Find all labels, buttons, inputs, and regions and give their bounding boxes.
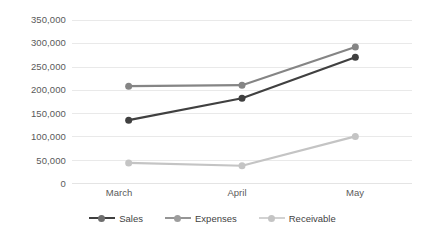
y-tick-label: 350,000 (0, 15, 66, 25)
line-chart: 350,000 300,000 250,000 200,000 150,000 … (0, 0, 425, 237)
y-tick-label: 100,000 (0, 132, 66, 142)
legend-dot (174, 215, 181, 222)
series-line-receivable (129, 136, 356, 165)
x-axis: March April May (72, 187, 412, 203)
legend-item-receivable[interactable]: Receivable (259, 213, 336, 224)
y-tick-label: 50,000 (0, 156, 66, 166)
plot-area (72, 20, 412, 183)
data-point[interactable] (239, 162, 246, 169)
data-point[interactable] (239, 82, 246, 89)
y-tick-label: 150,000 (0, 109, 66, 119)
legend-item-sales[interactable]: Sales (89, 213, 143, 224)
data-point[interactable] (352, 133, 359, 140)
legend-marker-icon (165, 213, 191, 223)
x-tick-label: May (346, 187, 364, 198)
series-layer (72, 20, 412, 183)
y-tick-label: 0 (0, 179, 66, 189)
x-tick-label: March (106, 187, 132, 198)
legend-dot (98, 215, 105, 222)
y-tick-label: 200,000 (0, 85, 66, 95)
data-point[interactable] (125, 159, 132, 166)
data-point[interactable] (125, 117, 132, 124)
y-axis: 350,000 300,000 250,000 200,000 150,000 … (0, 0, 66, 237)
data-point[interactable] (239, 95, 246, 102)
legend-item-expenses[interactable]: Expenses (165, 213, 237, 224)
data-point[interactable] (352, 44, 359, 51)
legend-marker-icon (259, 213, 285, 223)
data-point[interactable] (352, 54, 359, 61)
legend-label: Sales (119, 213, 143, 224)
series-line-expenses (129, 47, 356, 86)
y-tick-label: 300,000 (0, 38, 66, 48)
legend-label: Receivable (289, 213, 336, 224)
gridline-baseline (72, 183, 412, 184)
legend-label: Expenses (195, 213, 237, 224)
y-tick-label: 250,000 (0, 62, 66, 72)
legend-marker-icon (89, 213, 115, 223)
chart-legend: Sales Expenses Receivable (0, 208, 425, 228)
x-tick-label: April (227, 187, 246, 198)
legend-dot (268, 215, 275, 222)
data-point[interactable] (125, 83, 132, 90)
